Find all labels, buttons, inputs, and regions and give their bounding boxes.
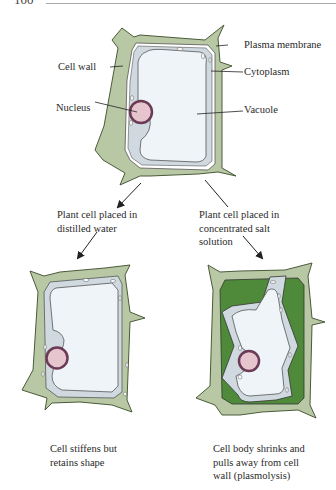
nucleus [130, 101, 152, 123]
label-cell-wall: Cell wall [58, 60, 96, 73]
nucleus [239, 351, 259, 371]
result-turgid: Cell stiffens but retains shape [50, 442, 117, 469]
condition-distilled-water: Plant cell placed in distilled water [57, 208, 137, 235]
label-plasma-membrane: Plasma membrane [244, 38, 321, 51]
condition-salt-solution: Plant cell placed in concentrated salt s… [199, 208, 279, 249]
label-nucleus: Nucleus [56, 101, 90, 114]
top-cell [95, 25, 236, 185]
turgid-cell [22, 265, 145, 412]
nucleus [47, 348, 68, 369]
plasmolyzed-cell [196, 263, 325, 418]
result-plasmolysis: Cell body shrinks and pulls away from ce… [213, 442, 305, 483]
label-cytoplasm: Cytoplasm [244, 65, 290, 78]
label-vacuole: Vacuole [244, 103, 278, 116]
